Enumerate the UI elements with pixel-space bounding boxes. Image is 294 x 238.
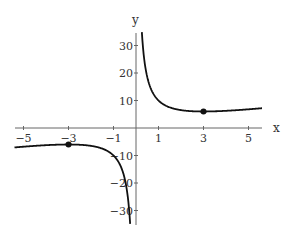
x-tick-label: −5 (15, 132, 31, 145)
function-plot: −5−3−1135 302010−10−20−30 x y (0, 0, 294, 238)
x-axis-label: x (273, 121, 280, 135)
x-tick-label: 5 (245, 132, 252, 145)
y-tick-label: 20 (119, 67, 133, 80)
local-maximum-point (66, 142, 72, 148)
curve-right-branch (142, 32, 262, 111)
y-tick-label: −20 (110, 177, 133, 190)
axes (15, 33, 262, 225)
local-minimum-point (201, 109, 207, 115)
x-tick-label: 1 (155, 132, 162, 145)
y-tick-label: 30 (119, 40, 133, 53)
y-tick-label: 10 (119, 95, 133, 108)
x-tick-label: 3 (200, 132, 207, 145)
x-tick-label: −1 (105, 132, 121, 145)
y-axis-label: y (131, 13, 139, 27)
x-ticks: −5−3−1135 (15, 126, 252, 145)
